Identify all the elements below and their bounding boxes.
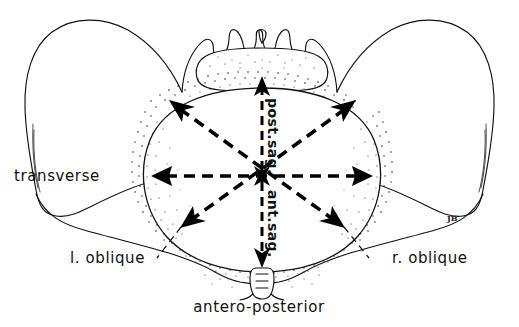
- label-antero-posterior: antero-posterior: [193, 298, 325, 316]
- label-left-oblique: l. oblique: [70, 249, 145, 267]
- label-right-oblique: r. oblique: [392, 249, 468, 267]
- artist-signature: JB: [446, 213, 458, 223]
- label-posterior-sagittal: post.sag.: [265, 98, 281, 175]
- pelvis-diameters-figure: transverse l. oblique r. oblique antero-…: [0, 0, 519, 327]
- pubic-symphysis: [215, 268, 304, 300]
- label-anterior-sagittal: ant.sag.: [265, 190, 281, 258]
- label-transverse: transverse: [14, 167, 100, 185]
- figure-canvas: transverse l. oblique r. oblique antero-…: [0, 0, 519, 327]
